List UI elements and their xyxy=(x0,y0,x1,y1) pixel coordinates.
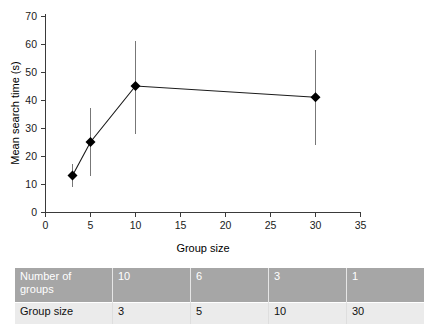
table-row: Group size 3 5 10 30 xyxy=(15,303,424,325)
table-cell-groups-4: 1 xyxy=(347,268,424,303)
x-tick-label-30: 30 xyxy=(310,219,322,231)
group-mapping-table: Number of groups 10 6 3 1 Group size 3 5… xyxy=(15,268,424,324)
y-tick-label-0: 0 xyxy=(31,206,37,218)
y-tick-label-40: 40 xyxy=(25,94,37,106)
table-cell-size-1: 3 xyxy=(113,303,191,325)
legend-table-container: Number of groups 10 6 3 1 Group size 3 5… xyxy=(15,268,375,324)
table-cell-size-2: 5 xyxy=(191,303,269,325)
y-tick-label-60: 60 xyxy=(25,38,37,50)
x-tick-label-5: 5 xyxy=(88,219,94,231)
y-tick-label-10: 10 xyxy=(25,178,37,190)
table-row-label-number-of-groups: Number of groups xyxy=(15,268,113,303)
table-cell-groups-1: 10 xyxy=(113,268,191,303)
x-tick-label-0: 0 xyxy=(43,219,49,231)
table-row-label-group-size: Group size xyxy=(15,303,113,325)
line-chart: 0 10 20 30 40 50 60 70 0 5 10 15 20 25 3… xyxy=(0,0,390,262)
y-tick-label-50: 50 xyxy=(25,66,37,78)
chart-background xyxy=(0,0,390,262)
y-tick-label-20: 20 xyxy=(25,150,37,162)
table-cell-size-4: 30 xyxy=(347,303,424,325)
x-tick-label-25: 25 xyxy=(265,219,277,231)
x-tick-label-20: 20 xyxy=(220,219,232,231)
table-cell-groups-3: 3 xyxy=(269,268,347,303)
chart-figure: 0 10 20 30 40 50 60 70 0 5 10 15 20 25 3… xyxy=(0,0,390,262)
table-row: Number of groups 10 6 3 1 xyxy=(15,268,424,303)
x-tick-label-35: 35 xyxy=(355,219,367,231)
y-tick-label-30: 30 xyxy=(25,122,37,134)
y-axis-title: Mean search time (s) xyxy=(9,61,21,164)
table-cell-size-3: 10 xyxy=(269,303,347,325)
table-cell-groups-2: 6 xyxy=(191,268,269,303)
x-tick-label-15: 15 xyxy=(175,219,187,231)
x-tick-label-10: 10 xyxy=(130,219,142,231)
x-axis-title: Group size xyxy=(176,242,229,254)
y-tick-label-70: 70 xyxy=(25,10,37,22)
